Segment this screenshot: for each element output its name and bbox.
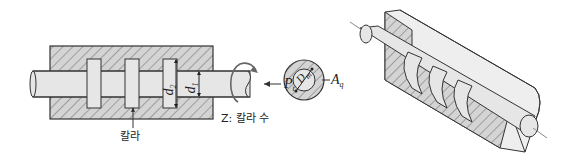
bearing-diagram	[0, 0, 564, 165]
collar-1	[87, 59, 101, 108]
isometric-view	[350, 10, 547, 152]
collar-count-label: Z: 칼라 수	[221, 113, 269, 124]
force-arrow-icon	[264, 81, 270, 87]
shaft-end-left	[30, 71, 36, 97]
collar-2	[125, 59, 139, 108]
collar-3	[163, 59, 177, 108]
force-label: Pt	[284, 77, 295, 93]
collar-label: 칼라	[120, 131, 140, 142]
d1-label: d1	[184, 83, 200, 94]
d2-label: d2	[162, 85, 178, 96]
area-label: Aq	[331, 73, 344, 89]
